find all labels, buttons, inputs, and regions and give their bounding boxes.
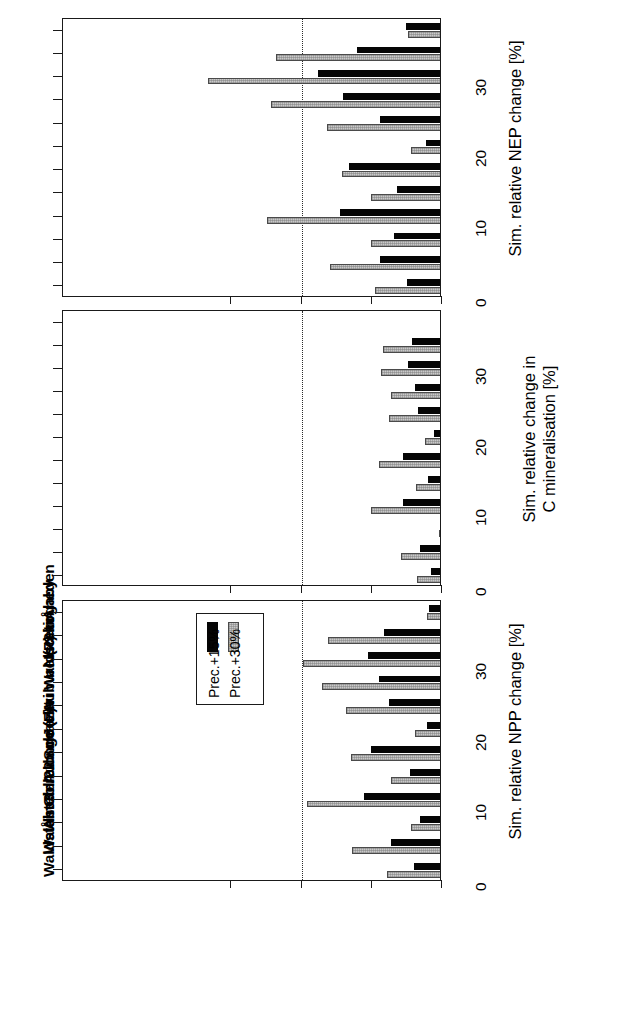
category-tick bbox=[53, 123, 62, 124]
category-tick bbox=[53, 682, 62, 683]
value-tick-0 bbox=[441, 296, 442, 304]
bar bbox=[434, 430, 441, 437]
bar bbox=[408, 31, 441, 38]
category-tick bbox=[53, 391, 62, 392]
category-tick bbox=[53, 483, 62, 484]
category-tick bbox=[53, 216, 62, 217]
bar bbox=[352, 847, 441, 854]
axis-title: Sim. relative change in C mineralisation… bbox=[519, 298, 559, 580]
bar bbox=[410, 769, 441, 776]
value-tick-10 bbox=[371, 585, 372, 593]
value-tick-0 bbox=[441, 880, 442, 888]
bar bbox=[379, 676, 441, 683]
value-tick-20 bbox=[301, 296, 302, 304]
category-tick bbox=[53, 53, 62, 54]
axis-title: Sim. relative NPP change [%] bbox=[505, 588, 525, 875]
category-tick bbox=[53, 506, 62, 507]
bar bbox=[340, 209, 442, 216]
gridline-20 bbox=[302, 601, 303, 880]
bar bbox=[389, 415, 441, 422]
category-tick bbox=[53, 76, 62, 77]
value-tick-10 bbox=[371, 296, 372, 304]
bar bbox=[408, 361, 441, 368]
bar bbox=[420, 545, 441, 552]
bar bbox=[343, 93, 441, 100]
category-tick bbox=[53, 552, 62, 553]
bar bbox=[411, 147, 441, 154]
category-tick bbox=[53, 869, 62, 870]
panel-nep bbox=[62, 18, 441, 297]
category-tick bbox=[53, 729, 62, 730]
bar bbox=[375, 287, 441, 294]
bar bbox=[351, 754, 441, 761]
value-tick-30 bbox=[230, 585, 231, 593]
category-tick bbox=[53, 752, 62, 753]
value-tick-10 bbox=[371, 880, 372, 888]
bar bbox=[429, 605, 441, 612]
bar bbox=[364, 793, 441, 800]
category-tick bbox=[53, 368, 62, 369]
category-tick bbox=[53, 776, 62, 777]
bar bbox=[394, 233, 441, 240]
category-tick bbox=[53, 285, 62, 286]
bar bbox=[368, 652, 441, 659]
bar bbox=[440, 323, 441, 330]
value-tick-label-0: 0 bbox=[472, 298, 490, 307]
bar bbox=[389, 699, 441, 706]
category-tick bbox=[53, 345, 62, 346]
bar bbox=[307, 801, 442, 808]
bar bbox=[322, 683, 441, 690]
category-tick bbox=[53, 169, 62, 170]
bar bbox=[371, 746, 441, 753]
value-tick-label-30: 30 bbox=[472, 368, 490, 385]
bar bbox=[387, 871, 441, 878]
category-tick bbox=[53, 239, 62, 240]
value-tick-label-10: 10 bbox=[472, 804, 490, 821]
bar bbox=[418, 407, 441, 414]
category-tick bbox=[53, 612, 62, 613]
bar bbox=[391, 839, 441, 846]
bar bbox=[406, 23, 441, 30]
bar bbox=[401, 553, 441, 560]
legend: Prec.+15%Prec.+30% bbox=[196, 613, 264, 705]
bar bbox=[439, 530, 441, 537]
value-tick-30 bbox=[230, 880, 231, 888]
bar bbox=[346, 707, 441, 714]
figure-root: ÅhedenSkogabyNacetinWaldsteinAubure (P)J… bbox=[0, 0, 624, 1033]
value-tick-label-20: 20 bbox=[472, 438, 490, 455]
category-tick bbox=[53, 262, 62, 263]
bar bbox=[327, 124, 441, 131]
category-tick bbox=[53, 635, 62, 636]
value-tick-label-20: 20 bbox=[472, 733, 490, 750]
bar bbox=[407, 279, 441, 286]
panel-c-mineralisation bbox=[62, 310, 441, 586]
category-tick bbox=[53, 99, 62, 100]
bar bbox=[318, 70, 441, 77]
value-tick-label-30: 30 bbox=[472, 79, 490, 96]
category-tick bbox=[53, 705, 62, 706]
category-tick bbox=[53, 846, 62, 847]
bar bbox=[208, 78, 441, 85]
bar bbox=[371, 240, 441, 247]
bar bbox=[349, 163, 441, 170]
bar bbox=[391, 392, 441, 399]
bar bbox=[384, 629, 441, 636]
category-tick bbox=[53, 659, 62, 660]
category-tick bbox=[53, 822, 62, 823]
bar bbox=[426, 140, 441, 147]
category-tick bbox=[53, 192, 62, 193]
bar bbox=[403, 499, 441, 506]
category-tick bbox=[53, 437, 62, 438]
value-tick-label-0: 0 bbox=[472, 587, 490, 596]
bar bbox=[397, 186, 441, 193]
category-tick bbox=[53, 460, 62, 461]
bar bbox=[381, 369, 441, 376]
bar bbox=[330, 264, 441, 271]
category-tick bbox=[53, 146, 62, 147]
bar bbox=[267, 217, 441, 224]
bar bbox=[414, 863, 441, 870]
value-tick-20 bbox=[301, 880, 302, 888]
value-tick-0 bbox=[441, 585, 442, 593]
legend-label: Prec.+30% bbox=[227, 629, 243, 698]
bar bbox=[431, 568, 441, 575]
